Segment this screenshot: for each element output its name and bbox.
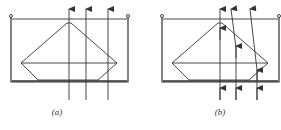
figure-canvas [0, 0, 281, 130]
ray-b-3 [250, 9, 257, 100]
panel-a [10, 9, 130, 100]
panel-b [161, 9, 281, 100]
panel-b-label: (b) [210, 107, 230, 117]
vessel-b [161, 15, 281, 83]
vessel-a [10, 15, 130, 83]
panel-a-label: (a) [47, 107, 67, 117]
ray-b-2 [231, 9, 236, 100]
